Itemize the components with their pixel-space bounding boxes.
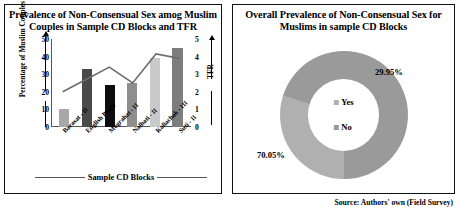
bar-chart-panel: Prevalence of Non-Consensual Sex amog Mu… xyxy=(4,4,222,194)
y-axis-right-rule xyxy=(211,91,212,125)
axis-tick-label: 30 xyxy=(41,70,49,79)
axis-tick-label: 0 xyxy=(45,123,49,132)
donut-chart-panel: Overall Prevalence of Non-Consensual Sex… xyxy=(232,4,455,194)
axis-tick-label: 1 xyxy=(195,105,199,114)
axis-tick-label: 50 xyxy=(41,35,49,44)
page-title: Prevalence of Non-Consensual Sex amog Mu… xyxy=(5,9,221,33)
legend-swatch xyxy=(333,100,338,105)
axis-tick-label: 0 xyxy=(195,123,199,132)
axis-tick-label: 10 xyxy=(41,105,49,114)
donut-chart-title: Overall Prevalence of Non-Consensual Sex… xyxy=(233,9,454,33)
x-axis-tick-labels: Barasat - IIEnglish BazarMograhat - IINa… xyxy=(51,127,191,171)
figure-root: Prevalence of Non-Consensual Sex amog Mu… xyxy=(0,0,459,218)
legend-label: No xyxy=(341,122,352,132)
x-axis-rule-right xyxy=(157,177,207,178)
legend-item: No xyxy=(333,122,353,132)
source-note: Source: Authors' own (Field Survey) xyxy=(335,198,453,207)
donut-label-no: 70.05% xyxy=(257,150,285,160)
donut-legend: YesNo xyxy=(333,97,353,147)
axis-tick-label: 3 xyxy=(195,70,199,79)
y-axis-left-title: Percentage of Muslim Couples xyxy=(19,9,27,97)
axis-tick-label: 5 xyxy=(195,35,199,44)
legend-label: Yes xyxy=(341,97,353,107)
x-axis-rule-left xyxy=(35,177,85,178)
x-axis-title-label: Sample CD Blocks xyxy=(88,173,155,182)
axis-tick-label: 20 xyxy=(41,87,49,96)
legend-item: Yes xyxy=(333,97,353,107)
x-axis-title: Sample CD Blocks xyxy=(35,173,207,182)
legend-swatch xyxy=(333,125,338,130)
axis-tick-label: 2 xyxy=(195,87,199,96)
donut-label-yes: 29.95% xyxy=(375,67,403,77)
y-axis-right-title: TFR xyxy=(206,52,215,92)
axis-tick-label: 40 xyxy=(41,52,49,61)
axis-tick-label: 4 xyxy=(195,52,199,61)
y-axis-left-ticks: 01020304050 xyxy=(35,39,49,127)
